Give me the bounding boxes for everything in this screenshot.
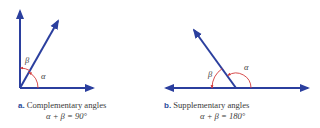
- beta-label: β: [24, 55, 30, 65]
- alpha-label: α: [41, 71, 46, 81]
- oblique-ray: [194, 30, 236, 88]
- alpha-label: α: [244, 62, 249, 72]
- caption-b-equation: α + β = 180°: [164, 111, 284, 121]
- caption-a-tag: a.: [18, 101, 25, 110]
- caption-a: a. Complementary angles α + β = 90°: [18, 100, 138, 121]
- caption-a-title: a. Complementary angles: [18, 100, 138, 111]
- caption-b-tag: b.: [164, 101, 171, 110]
- caption-b-title: b. Supplementary angles: [164, 100, 284, 111]
- beta-arc: [212, 69, 222, 89]
- supplementary-diagram: β α: [166, 30, 308, 88]
- caption-a-text: Complementary angles: [27, 100, 106, 110]
- caption-b: b. Supplementary angles α + β = 180°: [164, 100, 284, 121]
- complementary-diagram: β α: [20, 11, 93, 88]
- beta-label: β: [207, 69, 213, 79]
- alpha-arc: [29, 72, 38, 88]
- beta-arc: [21, 68, 30, 71]
- caption-b-text: Supplementary angles: [173, 100, 249, 110]
- caption-a-equation: α + β = 90°: [18, 111, 138, 121]
